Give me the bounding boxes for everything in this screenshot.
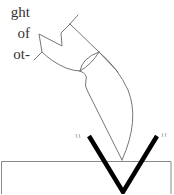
glove-drawing bbox=[34, 15, 133, 160]
motion-ticks-left bbox=[76, 134, 80, 138]
illustration-figure bbox=[0, 0, 174, 194]
surface-block bbox=[2, 162, 172, 195]
v-indentation bbox=[89, 136, 157, 192]
motion-ticks-right bbox=[162, 133, 166, 137]
